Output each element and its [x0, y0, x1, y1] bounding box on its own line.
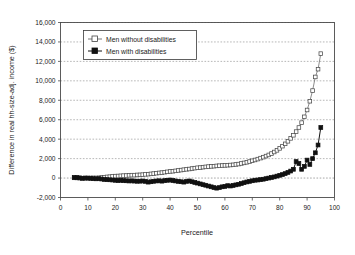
legend: Men without disabilities Men with disabi… — [84, 31, 197, 60]
x-axis-title: Percentile — [181, 228, 213, 237]
open-square-marker — [300, 121, 304, 125]
legend-label-series-0: Men without disabilities — [106, 36, 176, 43]
income-difference-line-chart: -2,00002,0004,0006,0008,00010,00012,0001… — [0, 0, 355, 255]
chart-container: -2,00002,0004,0006,0008,00010,00012,0001… — [0, 0, 355, 255]
filled-square-marker — [313, 151, 317, 155]
y-axis-title: Difference in real hh-size-adj. income (… — [7, 45, 16, 174]
y-tick-label: 2,000 — [39, 155, 56, 162]
open-square-marker — [305, 108, 309, 112]
y-tick-label: 14,000 — [35, 38, 56, 45]
x-tick-label: 0 — [59, 204, 63, 211]
x-tick-label: 80 — [276, 204, 284, 211]
filled-square-marker — [292, 167, 296, 171]
open-square-icon — [92, 36, 98, 42]
open-square-marker — [311, 89, 315, 93]
open-square-marker — [308, 99, 312, 103]
x-tick-label: 20 — [112, 204, 120, 211]
x-tick-label: 100 — [329, 204, 340, 211]
y-tick-label: 10,000 — [35, 77, 56, 84]
y-tick-label: 16,000 — [35, 19, 56, 26]
filled-square-marker — [302, 164, 306, 168]
x-tick-label: 30 — [139, 204, 147, 211]
open-square-marker — [297, 126, 301, 130]
filled-square-marker — [305, 158, 309, 162]
open-square-marker — [292, 133, 296, 137]
x-tick-label: 10 — [84, 204, 92, 211]
legend-label-series-1: Men with disabilities — [106, 48, 167, 55]
x-tick-label: 90 — [303, 204, 311, 211]
filled-square-marker — [297, 162, 301, 166]
filled-square-marker — [319, 126, 323, 130]
y-tick-label: 4,000 — [39, 136, 56, 143]
filled-square-marker — [308, 163, 312, 167]
y-tick-label: -2,000 — [37, 194, 56, 201]
x-tick-label: 60 — [221, 204, 229, 211]
open-square-marker — [314, 75, 318, 79]
filled-square-marker — [316, 143, 320, 147]
open-square-marker — [303, 115, 307, 119]
open-square-marker — [294, 130, 298, 134]
y-tick-label: 8,000 — [39, 97, 56, 104]
y-tick-label: 6,000 — [39, 116, 56, 123]
x-tick-label: 70 — [249, 204, 257, 211]
x-tick-label: 40 — [166, 204, 174, 211]
x-tick-label: 50 — [194, 204, 202, 211]
open-square-marker — [316, 67, 320, 71]
filled-square-icon — [92, 48, 98, 54]
filled-square-marker — [311, 157, 315, 161]
open-square-marker — [319, 52, 323, 56]
y-tick-label: 0 — [52, 174, 56, 181]
y-tick-label: 12,000 — [35, 58, 56, 65]
